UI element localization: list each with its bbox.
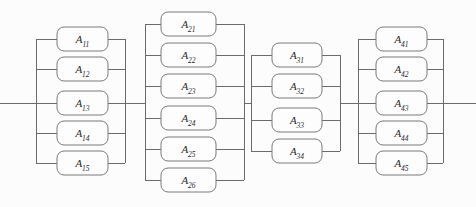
- label-subscript: 15: [82, 163, 90, 172]
- label-subscript: 26: [188, 180, 196, 189]
- label-subscript: 33: [296, 120, 305, 129]
- label-subscript: 32: [296, 86, 305, 95]
- label-subscript: 44: [401, 133, 409, 142]
- label-subscript: 34: [296, 151, 305, 160]
- label-subscript: 21: [188, 24, 196, 33]
- label-subscript: 11: [82, 39, 89, 48]
- label-subscript: 45: [401, 163, 409, 172]
- diagram-canvas: A11A12A13A14A15A21A22A23A24A25A26A31A32A…: [0, 0, 476, 207]
- label-subscript: 14: [82, 133, 90, 142]
- label-subscript: 41: [401, 39, 409, 48]
- label-subscript: 13: [82, 103, 90, 112]
- label-subscript: 25: [188, 149, 196, 158]
- reliability-block-diagram: A11A12A13A14A15A21A22A23A24A25A26A31A32A…: [0, 0, 476, 207]
- label-subscript: 23: [188, 86, 196, 95]
- label-subscript: 31: [296, 55, 305, 64]
- label-subscript: 12: [82, 69, 90, 78]
- label-subscript: 22: [188, 55, 196, 64]
- label-subscript: 42: [401, 69, 409, 78]
- label-subscript: 43: [401, 103, 409, 112]
- label-subscript: 24: [188, 118, 196, 127]
